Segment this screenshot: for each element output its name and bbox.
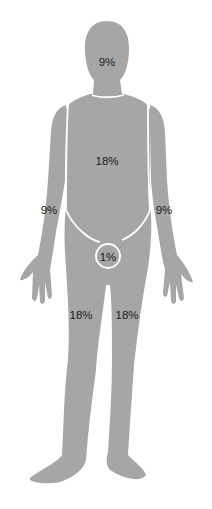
- label-head: 9%: [99, 56, 116, 68]
- label-genitals: 1%: [100, 251, 117, 263]
- label-left-leg: 18%: [69, 309, 92, 321]
- label-torso: 18%: [95, 155, 118, 167]
- label-right-arm: 9%: [156, 204, 173, 216]
- label-left-arm: 9%: [41, 204, 58, 216]
- label-right-leg: 18%: [115, 309, 138, 321]
